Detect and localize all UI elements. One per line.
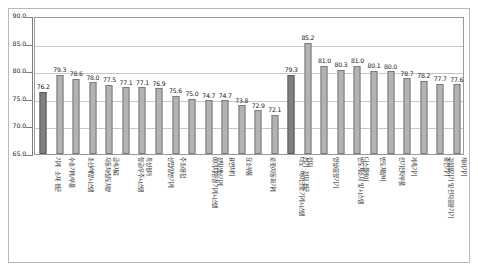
x-axis-label-text: 충전기기 [443,157,449,176]
bar-slot: 75.6 [167,18,184,154]
bar[interactable] [288,75,295,154]
bar[interactable] [56,75,63,154]
bar-value-label: 78.7 [401,71,414,77]
bar-value-label: 75.0 [186,91,199,97]
bar[interactable] [222,100,229,154]
bar-slot: 79.3 [52,18,69,154]
bar-slot: 75.0 [184,18,201,154]
bar[interactable] [106,85,113,154]
bar-chart: 90.085.080.075.070.065.0 76.279.378.678.… [0,0,478,271]
bar-value-label: 80.3 [334,62,347,68]
bar-value-label: 77.1 [119,80,132,86]
bar-value-label: 72.9 [252,103,265,109]
bar[interactable] [420,81,427,154]
y-axis-tick [26,127,32,128]
bar-slot: 77.1 [118,18,135,154]
bar-slot: 76.2 [35,18,52,154]
x-axis-label-text: 디스플레이 [363,157,369,181]
bar-slot: 78.2 [415,18,432,154]
bar-value-label: 73.8 [235,98,248,104]
x-axis-label-text: 항공/우주시스템 [137,157,143,192]
x-axis-label-text: 자동차/철도차량 [104,157,110,192]
bar[interactable] [387,71,394,154]
bar[interactable] [122,87,129,154]
bar[interactable] [453,84,460,154]
y-axis-tick-label: 75.0 [0,96,26,104]
bar[interactable] [205,100,212,154]
bar[interactable] [139,87,146,154]
bar-value-label: 78.0 [86,75,99,81]
bar-value-label: 78.2 [417,73,430,79]
x-axis-label-text: 계측기기 [410,157,416,176]
bar-slot: 80.0 [382,18,399,154]
bar[interactable] [172,96,179,155]
x-axis-labels: 기계 · 소재 평균수송기계/부품조선/해양시스템자동차/철도차량금속재료항공/… [34,157,464,269]
y-axis-tick-label-text: 75.0 [2,96,26,102]
bar-value-label: 76.9 [153,81,166,87]
x-axis-label-text: 제어기기 [460,157,466,176]
bar-value-label: 77.5 [103,77,116,83]
x-axis-label-text: 요소부품 [245,157,251,176]
y-axis-tick-label: 70.0 [0,123,26,131]
bar-slot: 72.1 [267,18,284,154]
bar[interactable] [371,71,378,154]
bar-slot: 78.7 [399,18,416,154]
y-axis-tick [26,72,32,73]
y-axis-tick-label-text: 80.0 [2,68,26,74]
x-axis-label-text: 산업/일반기계 [168,157,174,188]
bar[interactable] [271,115,278,154]
x-axis-label-text: 로봇/자동화기계 [269,157,275,192]
bar[interactable] [354,66,361,154]
bar-value-label: 75.6 [169,88,182,94]
y-axis-line [32,17,33,156]
y-axis-tick-label: 85.0 [0,41,26,49]
bar[interactable] [255,110,262,154]
bar-value-label: 80.1 [368,63,381,69]
y-axis-tick [26,45,32,46]
bar-slot: 74.7 [200,18,217,154]
bar[interactable] [321,66,328,154]
bar[interactable] [404,78,411,154]
bar-slot: 80.3 [333,18,350,154]
x-axis-label-text: 반도체장비 [379,157,385,181]
x-axis-label-text: 정밀생산기계 [216,157,222,186]
bar-value-label: 77.7 [434,76,447,82]
bar[interactable] [437,84,444,154]
y-axis-tick [26,155,32,156]
x-axis-label-text: 표면처리 [228,157,234,176]
x-axis-label-text: 영상/음향기기 [333,157,339,188]
x-axis-label-text: 주조/용접 [179,157,185,178]
bar-slot: 85.2 [300,18,317,154]
y-axis-tick [26,100,32,101]
x-axis-label-text: 금속재료 [112,157,118,176]
bar[interactable] [337,70,344,154]
x-axis-label-text: 전자 [306,157,312,167]
y-axis-tick-label: 90.0 [0,13,26,21]
bar[interactable] [156,88,163,154]
y-axis-tick-label-text: 65.0 [2,151,26,157]
bar-value-label: 74.7 [202,93,215,99]
y-axis-tick-label-text: 70.0 [2,123,26,129]
bar-slot: 73.8 [233,18,250,154]
bar-value-label: 74.7 [219,93,232,99]
x-axis-label-text: 조선/해양시스템 [87,157,93,192]
bar-value-label: 77.1 [136,80,149,86]
x-axis-label-text: 전기전자부품 [398,157,404,186]
bar-value-label: 79.3 [285,67,298,73]
bar[interactable] [89,82,96,154]
bar-value-label: 81.0 [351,58,364,64]
bar-slot: 80.1 [366,18,383,154]
bar[interactable] [189,99,196,154]
bar-slot: 78.0 [85,18,102,154]
bar-slot: 81.0 [349,18,366,154]
bar-slot: 76.9 [151,18,168,154]
x-axis-label-text: 특성평가 [145,157,151,176]
bar-value-label: 81.0 [318,58,331,64]
bar[interactable] [73,79,80,154]
y-axis-tick-label: 80.0 [0,68,26,76]
bar-value-label: 78.6 [70,71,83,77]
bar[interactable] [238,105,245,154]
bar[interactable] [304,43,311,155]
bar[interactable] [40,92,47,154]
bar-slot: 77.1 [134,18,151,154]
